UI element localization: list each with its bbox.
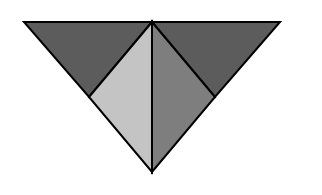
triangle-diagram [0, 0, 322, 195]
diagram-canvas [0, 0, 322, 195]
